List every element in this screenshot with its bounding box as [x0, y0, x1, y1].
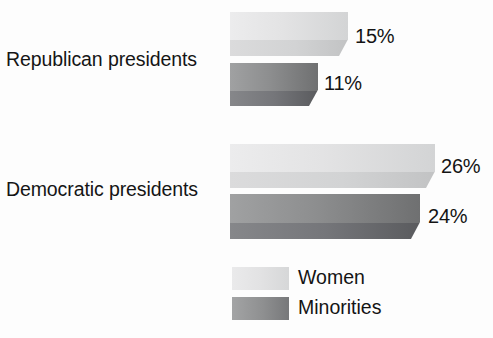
- bar-bottom-face: [230, 172, 435, 188]
- bar-top-face: [230, 12, 348, 40]
- bar-body: [230, 12, 348, 56]
- bar-top-face: [230, 194, 420, 223]
- legend-item-women: Women: [232, 266, 381, 290]
- bar-democratic-women: [230, 144, 435, 188]
- bar-face: [230, 63, 318, 106]
- legend-swatch-women-icon: [232, 267, 289, 290]
- bar-republican-women: [230, 12, 348, 56]
- legend-label-women: Women: [298, 268, 365, 288]
- legend-swatch-minorities-icon: [232, 297, 289, 320]
- bar-bottom-face: [230, 40, 348, 56]
- value-label-republican-minorities: 11%: [324, 73, 362, 93]
- bar-body: [230, 144, 435, 188]
- bar-body: [230, 63, 318, 106]
- bar-top-face: [230, 144, 435, 172]
- legend-label-minorities: Minorities: [298, 298, 381, 318]
- bar-top-face: [230, 63, 318, 91]
- bar-republican-minorities: [230, 63, 318, 106]
- category-label-democratic-presidents: Democratic presidents: [6, 180, 198, 200]
- bar-democratic-minorities: [230, 194, 420, 239]
- bar-bottom-face: [230, 223, 420, 239]
- bar-face: [230, 12, 348, 56]
- value-label-democratic-women: 26%: [441, 156, 480, 176]
- chart-legend: Women Minorities: [232, 266, 381, 326]
- bar-bottom-face: [230, 91, 318, 106]
- bar-body: [230, 194, 420, 239]
- bar-chart: Republican presidents Democratic preside…: [0, 0, 493, 338]
- value-label-democratic-minorities: 24%: [428, 206, 467, 226]
- bar-face: [230, 194, 420, 239]
- value-label-republican-women: 15%: [355, 26, 394, 46]
- legend-item-minorities: Minorities: [232, 296, 381, 320]
- category-label-republican-presidents: Republican presidents: [6, 50, 197, 70]
- bar-face: [230, 144, 435, 188]
